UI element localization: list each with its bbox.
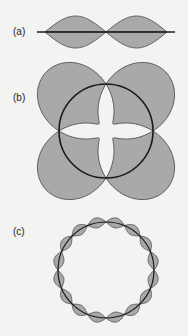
panel-a-string-wave xyxy=(37,16,175,48)
standing-wave-diagram xyxy=(0,0,188,336)
panel-c-circular-wave xyxy=(54,218,158,322)
panel-b-circular-wave xyxy=(37,62,174,199)
